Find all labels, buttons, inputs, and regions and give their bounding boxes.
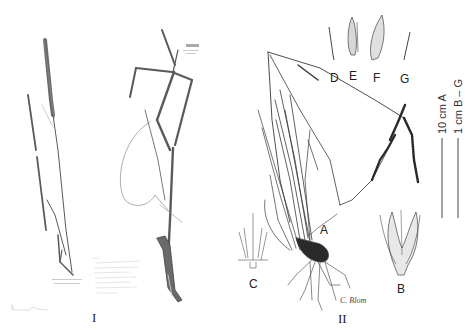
- dissection-F: [370, 15, 384, 60]
- dissection-G: [404, 32, 410, 60]
- part-label-D: D: [330, 72, 339, 84]
- specimen-left-stem: [28, 40, 73, 275]
- panel-label-I: I: [92, 311, 96, 324]
- botanical-plate-figure: I II A B C D E F G 10 cm A 1 cm B – G C.…: [0, 0, 476, 330]
- panel-label-II: II: [338, 312, 347, 325]
- barcode: [186, 44, 199, 47]
- bottom-left-label: [12, 304, 48, 310]
- herbarium-label-lines: [92, 258, 140, 293]
- arching-culm-top: [268, 52, 404, 118]
- part-label-F: F: [373, 72, 380, 84]
- habit-drawing: [258, 52, 418, 310]
- part-label-E: E: [349, 70, 357, 82]
- part-label-B: B: [397, 283, 405, 295]
- arching-culm-left: [268, 52, 290, 222]
- part-label-A: A: [320, 224, 328, 236]
- plate-drawing: [0, 0, 476, 330]
- dissection-E: [348, 17, 358, 55]
- dissection-B: [380, 210, 420, 275]
- dissection-D: [329, 27, 334, 60]
- part-label-G: G: [400, 73, 409, 85]
- scale-label-10cm: 10 cm A: [436, 94, 448, 134]
- raceme-1: [404, 118, 418, 182]
- part-label-C: C: [249, 278, 258, 290]
- dissection-C: [238, 213, 268, 268]
- scale-label-1cm: 1 cm B – G: [452, 79, 464, 134]
- plant-base: [296, 238, 329, 262]
- det-slip: [52, 279, 82, 280]
- illustrator-signature: C. Blom: [340, 296, 366, 305]
